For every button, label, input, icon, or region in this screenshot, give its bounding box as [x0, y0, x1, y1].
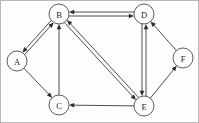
node-D[interactable]: D: [134, 4, 154, 24]
node-label-A: A: [14, 57, 21, 67]
edge-line-E-C: [73, 105, 134, 106]
node-F[interactable]: F: [173, 48, 193, 68]
node-B[interactable]: B: [49, 4, 69, 24]
edge-line-B-E: [64, 23, 133, 98]
node-E[interactable]: E: [134, 96, 154, 116]
edge-line-F-D: [153, 24, 176, 50]
arrowhead-B-to-D: [129, 14, 134, 19]
arrowhead-E-to-C: [69, 103, 74, 108]
node-label-E: E: [141, 102, 146, 112]
edge-A-B: [22, 20, 53, 54]
arrowhead-C-to-B: [57, 24, 62, 29]
nodes-layer: ABCDEF: [7, 4, 193, 116]
edge-line-A-B: [25, 25, 51, 54]
node-A[interactable]: A: [7, 51, 27, 71]
edge-E-F: [150, 66, 176, 98]
node-label-C: C: [56, 101, 62, 111]
edge-line-A-B: [25, 20, 51, 49]
graph-canvas: ABCDEF: [1, 1, 199, 123]
graph-figure: ABCDEF: [0, 0, 199, 123]
edge-E-C: [69, 103, 134, 108]
edge-line-E-F: [150, 69, 174, 99]
edge-A-C: [24, 68, 52, 98]
edge-B-E: [64, 20, 138, 100]
edges-layer: [22, 10, 176, 108]
edge-F-D: [151, 21, 177, 50]
arrowhead-E-to-D: [144, 24, 149, 29]
node-label-F: F: [181, 54, 186, 64]
edge-B-D: [69, 10, 134, 19]
node-C[interactable]: C: [49, 95, 69, 115]
edge-C-B: [57, 24, 62, 95]
arrowhead-D-to-E: [140, 91, 145, 96]
arrowhead-D-to-B: [69, 10, 74, 15]
edge-line-B-E: [70, 23, 139, 98]
edge-D-E: [140, 24, 149, 96]
node-label-B: B: [56, 10, 62, 20]
edge-line-A-C: [24, 68, 50, 95]
node-label-D: D: [141, 10, 147, 20]
